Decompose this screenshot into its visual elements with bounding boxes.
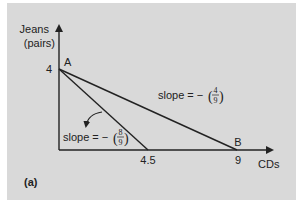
svg-text:9: 9 [119,138,123,147]
svg-text:slope = −: slope = − [63,131,108,143]
x-tick-label-4-5: 4.5 [140,154,155,166]
svg-text:(: ( [208,89,213,105]
y-axis-label: Jeans (pairs) [20,23,55,49]
slope-label-rotated: slope = − ( 8 9 ) [63,128,129,147]
slope-label-a-b: slope = − ( 4 9 ) [158,86,224,105]
svg-text:8: 8 [119,128,123,137]
point-b-label: B [234,136,241,148]
y-tick-label: 4 [46,63,52,75]
x-axis-label: CDs [258,158,280,170]
x-tick-label-9: 9 [235,154,241,166]
svg-text:4: 4 [214,86,218,95]
svg-text:): ) [219,89,224,105]
svg-text:(: ( [113,131,118,147]
point-a-label: A [64,56,72,68]
curved-arrow-icon [86,112,102,126]
panel-label: (a) [24,176,38,188]
svg-text:): ) [124,131,129,147]
budget-line-diagram: Jeans (pairs) 4 A B 4.5 9 CDs slope = − … [0,0,296,206]
svg-text:9: 9 [214,96,218,105]
svg-text:slope = −: slope = − [158,89,203,101]
